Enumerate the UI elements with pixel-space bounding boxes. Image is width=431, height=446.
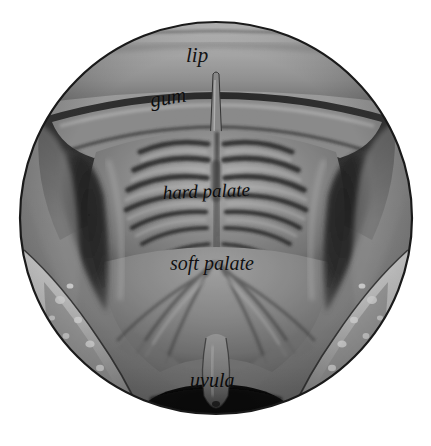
oral-cavity-illustration [0, 0, 431, 446]
rim-vignette [20, 22, 412, 414]
anatomy-figure: lip gum hard palate soft palate uvula [0, 0, 431, 446]
